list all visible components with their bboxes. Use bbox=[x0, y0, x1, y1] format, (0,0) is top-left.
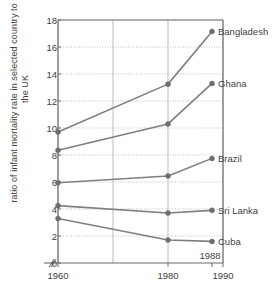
data-point bbox=[210, 208, 215, 213]
data-point bbox=[56, 180, 61, 185]
x-tick-label: 1980 bbox=[157, 270, 178, 281]
data-point bbox=[210, 239, 215, 244]
series-label-sri-lanka: Sri Lanka bbox=[218, 205, 258, 216]
data-point bbox=[56, 130, 61, 135]
data-point bbox=[166, 238, 171, 243]
series-label-brazil: Brazil bbox=[218, 153, 242, 164]
plot-area bbox=[0, 0, 275, 293]
data-point bbox=[210, 81, 215, 86]
annotation-1988: 1988 bbox=[199, 250, 220, 261]
x-tick-label: 1960 bbox=[47, 270, 68, 281]
data-point bbox=[56, 216, 61, 221]
data-point bbox=[166, 173, 171, 178]
data-point bbox=[166, 121, 171, 126]
series-label-ghana: Ghana bbox=[218, 78, 247, 89]
data-point bbox=[56, 148, 61, 153]
data-point bbox=[210, 29, 215, 34]
x-tick-label: 1990 bbox=[212, 270, 233, 281]
data-point bbox=[166, 82, 171, 87]
series-label-bangladesh: Bangladesh bbox=[218, 26, 268, 37]
series-label-cuba: Cuba bbox=[218, 236, 241, 247]
data-point bbox=[166, 211, 171, 216]
series-line-brazil bbox=[58, 158, 212, 182]
data-point bbox=[210, 156, 215, 161]
data-point bbox=[56, 203, 61, 208]
series-line-ghana bbox=[58, 83, 212, 150]
series-line-cuba bbox=[58, 218, 212, 241]
chart-figure: ratio of infant mortality rate in select… bbox=[0, 0, 275, 293]
